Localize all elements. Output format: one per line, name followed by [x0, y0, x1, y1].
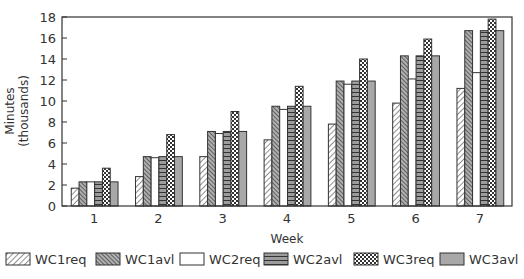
bar-wc2avl: [223, 131, 231, 206]
bar-wc3req: [360, 59, 368, 206]
bar-wc3avl: [239, 131, 247, 206]
legend-swatch: [440, 253, 464, 265]
y-tick-label: 14: [39, 52, 56, 67]
legend-label: WC3avl: [469, 252, 518, 267]
legend-label: WC2avl: [293, 252, 342, 267]
legend-swatch: [96, 253, 120, 265]
bar-wc2req: [215, 134, 223, 206]
x-tick-label: 5: [347, 211, 355, 226]
bar-wc3avl: [110, 182, 118, 206]
bar-wc3avl: [496, 31, 504, 206]
legend-item-wc3avl: WC3avl: [440, 252, 518, 267]
y-axis-title-line: Minutes: [3, 87, 17, 134]
y-tick-label: 10: [39, 94, 56, 109]
y-tick-label: 12: [39, 73, 56, 88]
bar-wc1req: [393, 103, 401, 206]
y-axis-title: Minutes(thousands): [3, 75, 31, 147]
legend-label: WC3req: [383, 252, 435, 267]
legend-item-wc1req: WC1req: [6, 252, 87, 267]
bar-wc3req: [424, 39, 432, 206]
bar-wc1avl: [208, 131, 216, 206]
bar-wc2avl: [159, 157, 167, 206]
y-tick-label: 0: [48, 199, 56, 214]
legend-swatch: [180, 253, 204, 265]
y-tick-label: 18: [39, 10, 56, 25]
bar-wc1req: [264, 140, 272, 206]
y-axis: 024681012141618: [39, 10, 67, 214]
x-tick-label: 7: [476, 211, 484, 226]
bar-wc1avl: [143, 157, 151, 206]
legend-label: WC2req: [209, 252, 261, 267]
bar-wc2avl: [480, 31, 488, 206]
bar-wc2req: [408, 79, 416, 206]
bar-wc2req: [473, 73, 481, 206]
legend-swatch: [264, 253, 288, 265]
bar-wc2req: [344, 84, 352, 206]
bar-wc1avl: [465, 31, 473, 206]
bar-group-week-4: [264, 86, 311, 206]
x-tick-label: 3: [219, 211, 227, 226]
y-axis-title-line: (thousands): [17, 75, 31, 147]
legend-label: WC1req: [35, 252, 87, 267]
bar-group-week-1: [71, 168, 118, 206]
bar-wc1req: [457, 88, 465, 206]
bar-wc1req: [136, 177, 144, 206]
x-axis-title: Week: [271, 232, 304, 246]
bar-wc3avl: [432, 56, 440, 206]
bar-wc2req: [151, 158, 159, 206]
legend-swatch: [354, 253, 378, 265]
bar-wc3avl: [303, 106, 311, 206]
x-axis: 1234567: [90, 211, 484, 226]
bar-group-week-2: [136, 135, 183, 206]
legend-label: WC1avl: [125, 252, 174, 267]
bar-group-week-7: [457, 19, 504, 206]
bar-wc2avl: [288, 106, 296, 206]
bar-wc3req: [102, 168, 110, 206]
legend: WC1reqWC1avlWC2reqWC2avlWC3reqWC3avl: [6, 252, 518, 267]
x-tick-label: 2: [154, 211, 162, 226]
bar-wc3req: [295, 86, 303, 206]
bar-wc2avl: [416, 56, 424, 206]
bar-wc2avl: [352, 81, 360, 206]
bar-group-week-6: [393, 39, 440, 206]
bar-chart: Minutes(thousands) 024681012141618 12345…: [0, 0, 524, 279]
bar-wc1avl: [400, 56, 408, 206]
y-tick-label: 16: [39, 31, 56, 46]
bar-wc3req: [488, 19, 496, 206]
bar-wc3avl: [367, 81, 375, 206]
legend-item-wc3req: WC3req: [354, 252, 435, 267]
y-tick-label: 2: [48, 178, 56, 193]
bar-wc3req: [167, 135, 175, 206]
y-tick-label: 6: [48, 136, 56, 151]
bar-wc1avl: [336, 81, 344, 206]
legend-item-wc2req: WC2req: [180, 252, 261, 267]
bar-wc3req: [231, 112, 239, 207]
bar-wc2avl: [95, 182, 103, 206]
y-tick-label: 4: [48, 157, 56, 172]
bar-wc1avl: [79, 182, 87, 206]
x-tick-label: 4: [283, 211, 291, 226]
x-tick-label: 1: [90, 211, 98, 226]
bar-wc2req: [87, 182, 95, 206]
bar-wc1req: [200, 157, 208, 206]
bar-wc1req: [71, 188, 79, 206]
bar-wc3avl: [175, 157, 183, 206]
bar-wc2req: [280, 109, 288, 206]
legend-item-wc2avl: WC2avl: [264, 252, 342, 267]
bars: [71, 19, 504, 206]
bar-group-week-3: [200, 112, 247, 207]
bar-wc1avl: [272, 106, 280, 206]
legend-swatch: [6, 253, 30, 265]
y-tick-label: 8: [48, 115, 56, 130]
x-tick-label: 6: [411, 211, 419, 226]
legend-item-wc1avl: WC1avl: [96, 252, 174, 267]
bar-wc1req: [328, 124, 336, 206]
bar-group-week-5: [328, 59, 375, 206]
